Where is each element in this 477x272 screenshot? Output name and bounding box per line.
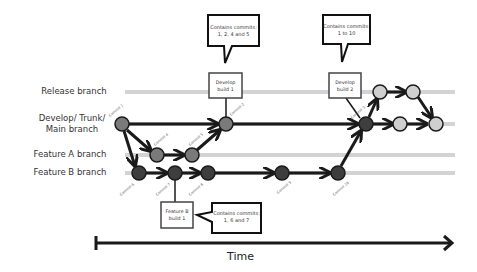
- commit-10-node[interactable]: [331, 166, 345, 180]
- callout-dev2: Contains commits: 1 to 10: [323, 15, 370, 62]
- build-dev1-line2: build 1: [217, 87, 233, 92]
- edge-r2-r3: [418, 97, 432, 118]
- release-node-1[interactable]: [373, 85, 387, 99]
- time-axis-label: Time: [227, 250, 254, 263]
- commit-label-4: Commit 4: [153, 132, 170, 147]
- release-node-2[interactable]: [406, 85, 420, 99]
- commit-5-node[interactable]: [185, 148, 199, 162]
- lanes: [125, 90, 455, 175]
- build-dev2-line1: Develop: [335, 80, 355, 85]
- edge-c3-r1: [369, 99, 377, 117]
- callout-dev1-line1: Contains commits:: [210, 24, 257, 30]
- commit-labels: Commit 1 Commit 4 Commit 5 Commit 2 Comm…: [108, 102, 366, 196]
- callout-dev1: Contains commits: 1, 2, 4 and 5: [208, 15, 259, 63]
- edge-c10-c3: [341, 131, 361, 166]
- time-axis: [96, 236, 452, 250]
- commit-4-node[interactable]: [150, 148, 164, 162]
- commits: [115, 85, 443, 180]
- commit-2-node[interactable]: [219, 117, 233, 131]
- build-dev2[interactable]: Develop build 2: [329, 73, 361, 98]
- callout-featb1: Contains commits: 1, 6 and 7: [197, 203, 261, 233]
- commit-7-node[interactable]: [168, 166, 182, 180]
- commit-label-8: Commit 8: [188, 182, 205, 197]
- commit-3-node[interactable]: [359, 117, 373, 131]
- commit-9-node[interactable]: [275, 166, 289, 180]
- build-featb1-line2: build 1: [169, 216, 185, 221]
- callout-dev2-line2: 1 to 10: [338, 30, 356, 36]
- branch-diagram: Commit 1 Commit 4 Commit 5 Commit 2 Comm…: [0, 0, 477, 272]
- commit-6-node[interactable]: [132, 166, 146, 180]
- release-node-3[interactable]: [429, 117, 443, 131]
- commit-label-7: Commit 7: [155, 182, 171, 196]
- build-dev1-line1: Develop: [216, 80, 236, 85]
- commit-label-9: Commit 9: [276, 180, 293, 195]
- commit-label-1: Commit 1: [108, 103, 124, 117]
- build-dev1[interactable]: Develop build 1: [209, 73, 242, 98]
- callout-featb1-line1: Contains commits:: [213, 210, 260, 216]
- callout-dev2-line1: Contains commits:: [323, 23, 370, 29]
- commit-label-6: Commit 6: [119, 182, 136, 197]
- develop-node-4[interactable]: [393, 117, 407, 131]
- commit-1-node[interactable]: [115, 117, 129, 131]
- build-featb1-line1: Feature B: [166, 209, 189, 214]
- commit-label-2: Commit 2: [229, 102, 245, 116]
- commit-label-10: Commit 10: [332, 180, 350, 196]
- build-dev2-line2: build 2: [337, 87, 353, 92]
- callout-featb1-line2: 1, 6 and 7: [224, 217, 249, 223]
- commit-8-node[interactable]: [201, 166, 215, 180]
- build-featb1[interactable]: Feature B build 1: [161, 202, 193, 228]
- callout-dev1-line2: 1, 2, 4 and 5: [218, 31, 250, 37]
